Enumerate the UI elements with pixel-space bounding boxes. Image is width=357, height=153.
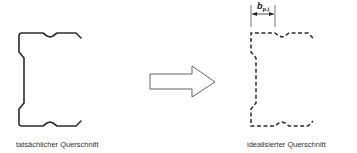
caption-idealized-cross-section: idealisierter Querschnitt bbox=[247, 140, 326, 149]
actual-cross-section-profile bbox=[19, 33, 81, 126]
caption-actual-cross-section: tatsächlicher Querschnitt bbox=[16, 140, 99, 149]
dimension-subscript: p,i bbox=[263, 6, 270, 12]
idealized-cross-section-profile bbox=[251, 33, 313, 126]
diagram-canvas bbox=[0, 0, 357, 153]
transformation-arrow-icon bbox=[150, 66, 215, 97]
dimension-label: bp,i bbox=[257, 1, 270, 12]
